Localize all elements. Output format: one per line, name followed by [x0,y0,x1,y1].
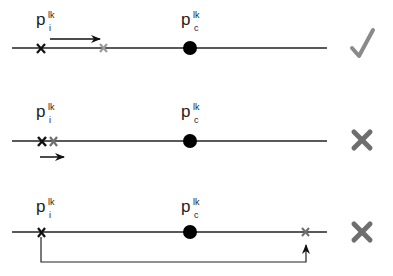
label-sup: lk [48,10,55,20]
label-p-c: p [181,197,190,216]
label-p-c: p [181,10,190,29]
check-icon [352,30,373,56]
label-sub: c [194,210,199,220]
label-p-i: p [36,102,45,121]
label-sup: lk [193,10,200,20]
center-dot [183,134,197,148]
cross-icon [354,132,370,148]
wrap-arrow [41,237,306,262]
label-sub: c [194,23,199,33]
label-sub: c [194,115,199,125]
label-p-c: p [181,102,190,121]
label-sup: lk [48,102,55,112]
label-p-i: p [36,10,45,29]
label-sub: i [49,210,51,220]
label-sup: lk [193,102,200,112]
cross-icon [354,224,370,240]
label-p-i: p [36,197,45,216]
diagram: p lk i p lk c p lk i p lk c [0,0,393,276]
label-sup: lk [193,197,200,207]
row-3: p lk i p lk c [12,197,370,262]
center-dot [183,41,197,55]
row-1: p lk i p lk c [12,10,373,56]
label-sub: i [49,23,51,33]
row-2: p lk i p lk c [12,102,370,157]
center-dot [183,225,197,239]
label-sup: lk [48,197,55,207]
label-sub: i [49,115,51,125]
